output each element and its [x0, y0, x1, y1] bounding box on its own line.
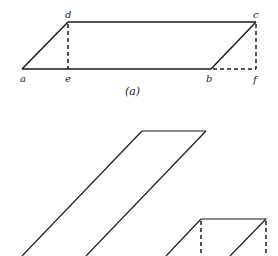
small-right-edge — [230, 219, 266, 256]
label-e: e — [65, 73, 71, 84]
parallelogram-diagram: d c a e b f (a) — [0, 0, 278, 256]
label-d: d — [65, 9, 71, 20]
label-a: a — [20, 73, 26, 84]
label-f: f — [252, 74, 259, 85]
small-left-edge — [166, 219, 201, 256]
tall-left-edge — [22, 131, 142, 256]
figure-a: d c a e b f (a) — [20, 9, 259, 98]
caption-a: (a) — [125, 85, 140, 98]
edge-b-c — [211, 22, 256, 69]
edge-a-d — [22, 22, 68, 69]
label-c: c — [253, 9, 259, 20]
label-b: b — [206, 73, 212, 84]
tall-right-edge — [86, 131, 206, 256]
figure-b — [22, 131, 266, 256]
